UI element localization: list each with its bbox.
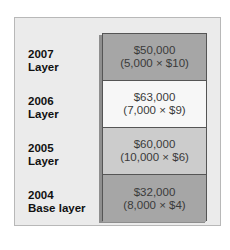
year-text: 2006 <box>28 95 59 108</box>
amount-text: $60,000 <box>134 138 176 151</box>
year-text: 2005 <box>28 142 59 155</box>
formula-text: (5,000 × $10) <box>120 57 189 70</box>
layer-name-text: Layer <box>28 108 59 121</box>
layer-name-text: Layer <box>28 155 59 168</box>
year-text: 2007 <box>28 48 59 61</box>
layer-cell-2004: $32,000(8,000 × $4) <box>103 175 206 222</box>
layer-cell-2006: $63,000(7,000 × $9) <box>103 81 206 128</box>
layer-name-text: Base layer <box>28 202 86 215</box>
layer-label-2006: 2006Layer <box>28 95 59 121</box>
layer-stack: $50,000(5,000 × $10) $63,000(7,000 × $9)… <box>102 33 207 221</box>
layer-label-2007: 2007Layer <box>28 48 59 74</box>
layer-cell-2007: $50,000(5,000 × $10) <box>103 34 206 81</box>
amount-text: $32,000 <box>134 186 176 199</box>
layer-cell-2005: $60,000(10,000 × $6) <box>103 128 206 175</box>
amount-text: $63,000 <box>134 91 176 104</box>
layer-label-2005: 2005Layer <box>28 142 59 168</box>
year-text: 2004 <box>28 189 86 202</box>
layer-label-2004: 2004Base layer <box>28 189 86 215</box>
formula-text: (8,000 × $4) <box>123 199 185 212</box>
formula-text: (10,000 × $6) <box>120 151 189 164</box>
formula-text: (7,000 × $9) <box>123 104 185 117</box>
layer-name-text: Layer <box>28 61 59 74</box>
amount-text: $50,000 <box>134 44 176 57</box>
